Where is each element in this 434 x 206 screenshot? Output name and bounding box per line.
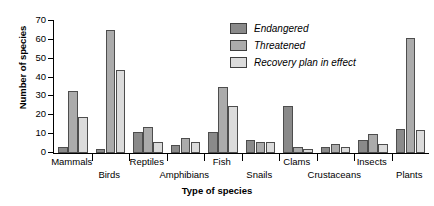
x-axis-separator — [204, 153, 205, 161]
bar — [406, 38, 416, 153]
bar — [266, 142, 276, 153]
x-axis-category-label: Mammals — [51, 156, 92, 167]
bar — [171, 145, 181, 153]
x-axis-category-label: Insects — [357, 156, 387, 167]
legend-item: Endangered — [230, 21, 356, 36]
bar — [368, 134, 378, 153]
bar — [293, 147, 303, 153]
bar — [78, 117, 88, 153]
y-axis-tick-label: 10 — [35, 127, 46, 139]
y-axis-tick-label: 70 — [35, 14, 46, 26]
x-axis-category-label: Snails — [246, 169, 272, 180]
x-axis-title: Type of species — [0, 185, 434, 196]
bar — [96, 149, 106, 153]
x-axis-category-label: Clams — [283, 156, 310, 167]
y-axis-tick-label: 0 — [41, 146, 46, 158]
bar — [228, 106, 238, 153]
legend-item: Threatened — [230, 38, 356, 53]
bar — [246, 140, 256, 153]
x-axis-category-label: Birds — [98, 169, 120, 180]
bar — [378, 144, 388, 153]
bar — [181, 138, 191, 153]
legend-swatch — [230, 23, 247, 34]
bar — [68, 91, 78, 153]
x-axis-separator — [354, 153, 355, 161]
x-axis-category-label: Fish — [213, 156, 231, 167]
x-axis-category-label: Reptiles — [130, 156, 164, 167]
bar — [396, 129, 406, 154]
x-axis-category-label: Amphibians — [159, 169, 209, 180]
bar — [58, 147, 68, 153]
bar — [283, 106, 293, 153]
legend-item: Recovery plan in effect — [230, 55, 356, 70]
bar — [191, 142, 201, 153]
y-axis-tick-label: 40 — [35, 71, 46, 83]
bar — [331, 144, 341, 153]
bar — [116, 70, 126, 153]
x-axis-separator — [242, 153, 243, 161]
x-axis-separator — [167, 153, 168, 161]
bar — [303, 149, 313, 153]
bar — [256, 142, 266, 153]
bar — [341, 147, 351, 153]
bar — [153, 142, 163, 153]
chart-legend: EndangeredThreatenedRecovery plan in eff… — [230, 21, 356, 72]
y-axis-tick-label: 50 — [35, 52, 46, 64]
bar — [133, 132, 143, 153]
bar — [321, 147, 331, 153]
bar — [416, 130, 426, 153]
legend-swatch — [230, 57, 247, 68]
legend-label: Threatened — [254, 40, 305, 51]
bar-chart-figure: Number of species 010203040506070 Mammal… — [0, 0, 434, 206]
bar — [218, 87, 228, 153]
y-axis-title: Number of species — [17, 8, 28, 128]
bar — [143, 127, 153, 153]
x-axis-category-label: Plants — [396, 169, 422, 180]
x-axis-separator — [392, 153, 393, 161]
bar — [106, 30, 116, 153]
bar — [208, 132, 218, 153]
y-axis-tick-label: 30 — [35, 89, 46, 101]
legend-label: Recovery plan in effect — [254, 57, 356, 68]
legend-label: Endangered — [254, 23, 309, 34]
x-axis-separator — [317, 153, 318, 161]
x-axis-separator — [279, 153, 280, 161]
bar — [358, 140, 368, 153]
x-axis-category-label: Crustaceans — [308, 169, 361, 180]
legend-swatch — [230, 40, 247, 51]
y-axis-tick-label: 60 — [35, 33, 46, 45]
y-axis-tick-label: 20 — [35, 108, 46, 120]
